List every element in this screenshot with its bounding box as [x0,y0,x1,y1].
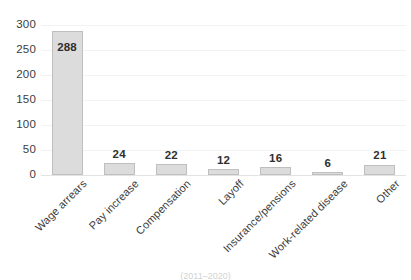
bar[interactable] [104,163,135,175]
bar[interactable] [312,172,343,175]
x-axis-tick-label: Other [374,178,402,206]
bar[interactable] [260,167,291,175]
bar[interactable] [364,165,395,176]
axis-baseline [41,175,406,176]
x-axis: Wage arrearsPay increaseCompensationLayo… [0,178,411,280]
bar-value-label: 22 [142,150,201,162]
bar-value-label: 288 [38,42,97,54]
bottom-caption: (2011–2020) [0,272,411,280]
y-axis-tick-label: 300 [0,19,36,31]
bar-group[interactable]: 21 [364,25,395,175]
bar-value-label: 24 [90,149,149,161]
y-axis-tick-label: 250 [0,44,36,56]
bar-value-label: 21 [350,150,409,162]
bar-group[interactable]: 6 [312,25,343,175]
bar-group[interactable]: 24 [104,25,135,175]
y-axis-tick-label: 150 [0,94,36,106]
bar[interactable] [208,169,239,175]
bar-value-label: 6 [298,158,357,170]
x-axis-tick-label: Layoff [216,178,246,208]
bar-value-label: 16 [246,153,305,165]
y-axis-tick-label: 200 [0,69,36,81]
bar-group[interactable]: 12 [208,25,239,175]
x-axis-tick-label: Wage arrears [33,178,89,234]
plot-area: 28824221216621 [41,25,406,175]
bar[interactable] [156,164,187,175]
bar-group[interactable]: 16 [260,25,291,175]
y-axis-tick-label: 100 [0,119,36,131]
y-axis-tick-label: 50 [0,144,36,156]
bar-value-label: 12 [194,155,253,167]
x-axis-tick-label: Compensation [134,178,193,237]
bar-group[interactable]: 22 [156,25,187,175]
bar-chart: 050100150200250300 28824221216621 Wage a… [0,0,411,280]
bar-group[interactable]: 288 [52,25,83,175]
x-axis-tick-label: Pay increase [87,178,141,232]
